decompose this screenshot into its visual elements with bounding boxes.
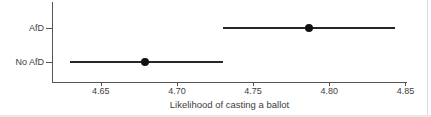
- category-label-afd: AfD: [29, 23, 44, 33]
- dot-whisker-chart: Likelihood of casting a ballot AfDNo AfD…: [0, 0, 431, 117]
- right-border-line: [427, 0, 428, 117]
- x-axis-line: [52, 82, 407, 83]
- category-label-no-afd: No AfD: [15, 57, 44, 67]
- bottom-border-line: [0, 115, 431, 117]
- category-tick-no-afd: [46, 62, 52, 63]
- x-tick-label: 4.70: [168, 86, 186, 96]
- x-tick-label: 4.85: [397, 86, 415, 96]
- point-estimate-dot-no-afd: [141, 58, 149, 66]
- category-tick-afd: [46, 28, 52, 29]
- x-tick-label: 4.80: [321, 86, 339, 96]
- point-estimate-dot-afd: [305, 24, 313, 32]
- x-tick-label: 4.75: [244, 86, 262, 96]
- x-axis-title: Likelihood of casting a ballot: [170, 99, 289, 110]
- y-axis-line: [52, 2, 53, 82]
- x-tick-label: 4.65: [92, 86, 110, 96]
